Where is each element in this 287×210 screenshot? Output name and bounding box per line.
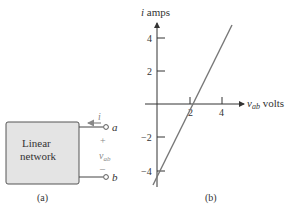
x-tick-4: 4 [219,107,224,118]
voltage-label: vab [99,150,111,163]
y-tick-neg4: −4 [141,166,152,177]
panel-b-graph: i amps vab volts 4 2 −2 −4 2 4 (b) [141,6,284,204]
y-tick-4: 4 [147,33,152,44]
iv-characteristic-line [153,25,232,185]
caption-a: (a) [37,192,48,204]
terminal-b-label: b [112,171,118,183]
x-ticks: 2 4 [188,97,224,118]
y-ticks: 4 2 −2 −4 [141,33,165,177]
box-label-line1: Linear [22,137,51,149]
panel-a-circuit: Linear network a b i + vab – (a) [6,111,118,204]
current-label: i [98,111,101,122]
box-label-line2: network [20,150,57,162]
plus-sign: + [100,135,106,146]
terminal-a-node [104,125,109,130]
figure-canvas: Linear network a b i + vab – (a) i amps … [0,0,287,210]
caption-b: (b) [205,192,217,204]
y-tick-2: 2 [147,66,152,77]
y-axis-label: i amps [141,6,170,18]
terminal-a-label: a [112,121,118,133]
y-tick-neg2: −2 [141,132,152,143]
minus-sign: – [99,163,106,174]
x-axis-label: vab volts [247,97,284,111]
terminal-b-node [104,175,109,180]
